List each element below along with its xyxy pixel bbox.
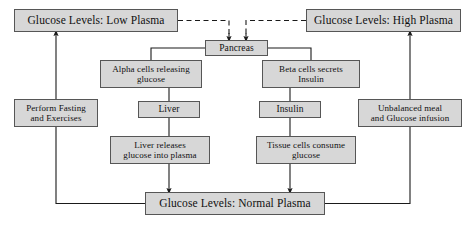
node-pancreas[interactable]: Pancreas — [205, 40, 268, 56]
node-liver-releases-glucose-into-plasma[interactable]: Liver releases glucose into plasma — [110, 136, 210, 164]
edge-pancreas-to-alpha — [151, 48, 205, 60]
edge-low-to-pancreas — [178, 21, 229, 35]
node-unbalanced-meal-and-glucose-infusion[interactable]: Unbalanced meal and Glucose infusion — [358, 99, 462, 127]
node-perform-fasting-and-exercises[interactable]: Perform Fasting and Exercises — [14, 99, 98, 127]
node-beta-cells-secrets-insulin[interactable]: Beta cells secrets Insulin — [262, 60, 360, 88]
node-glucose-normal-plasma[interactable]: Glucose Levels: Normal Plasma — [145, 192, 325, 215]
node-tissue-cells-consume-glucose[interactable]: Tissue cells consume glucose — [256, 136, 356, 164]
node-insulin[interactable]: Insulin — [259, 101, 321, 118]
edge-high-to-pancreas — [246, 21, 306, 35]
node-alpha-cells-releasing-glucose[interactable]: Alpha cells releasing glucose — [100, 60, 202, 88]
node-glucose-low-plasma[interactable]: Glucose Levels: Low Plasma — [14, 9, 178, 32]
node-liver[interactable]: Liver — [138, 101, 200, 118]
node-glucose-high-plasma[interactable]: Glucose Levels: High Plasma — [306, 9, 461, 32]
edge-pancreas-to-beta — [268, 48, 311, 60]
flowchart-canvas: Glucose Levels: Low Plasma Glucose Level… — [0, 0, 473, 226]
